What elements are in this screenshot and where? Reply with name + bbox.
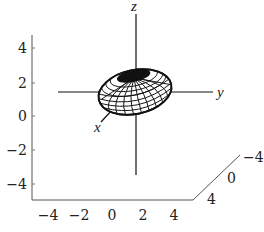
z-axis-label: z [130, 0, 137, 14]
tick-z-3: −2 [6, 142, 27, 158]
tick-depth-2: 4 [207, 191, 216, 207]
ellipsoid-surface [94, 60, 177, 124]
tick-bottom-0: −4 [38, 207, 59, 223]
tick-z-0: 4 [18, 40, 27, 56]
vertical-tick-labels: 4 2 0 −2 −4 [6, 40, 27, 192]
tick-bottom-3: 2 [139, 207, 148, 223]
tick-bottom-4: 4 [170, 207, 179, 223]
tick-bottom-2: 0 [108, 207, 117, 223]
tick-z-2: 0 [18, 108, 27, 124]
tick-depth-0: −4 [243, 149, 264, 165]
ellipsoid-plot: 4 2 0 −2 −4 −4 −2 0 2 4 −4 0 4 z y x [0, 0, 264, 232]
tick-bottom-1: −2 [69, 207, 90, 223]
y-axis-label: y [215, 84, 224, 100]
tick-z-1: 2 [18, 75, 27, 91]
tick-z-4: −4 [6, 176, 27, 192]
bottom-tick-labels: −4 −2 0 2 4 [38, 207, 179, 223]
tick-depth-1: 0 [227, 170, 236, 186]
x-axis-label: x [93, 119, 101, 135]
